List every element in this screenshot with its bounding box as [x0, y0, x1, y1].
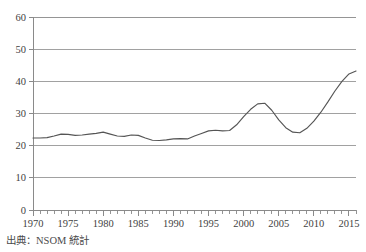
x-tick-label-1975: 1975 [58, 218, 79, 229]
source-caption: 出典：NSOM 統計 [6, 232, 89, 247]
x-tick-label-2010: 2010 [303, 218, 324, 229]
plot-area: 0102030405060197019751980198519901995200… [0, 0, 366, 232]
chart-figure: 0102030405060197019751980198519901995200… [0, 0, 366, 252]
y-tick-label-60: 60 [16, 12, 27, 23]
x-tick-label-1985: 1985 [128, 218, 149, 229]
y-tick-label-20: 20 [16, 140, 27, 151]
x-tick-label-1980: 1980 [93, 218, 114, 229]
y-tick-label-30: 30 [16, 108, 27, 119]
y-tick-label-50: 50 [16, 44, 27, 55]
y-tick-label-10: 10 [16, 172, 27, 183]
line-chart-svg: 0102030405060197019751980198519901995200… [0, 0, 366, 232]
x-tick-label-2000: 2000 [233, 218, 254, 229]
x-tick-label-2015: 2015 [338, 218, 359, 229]
y-tick-label-40: 40 [16, 76, 27, 87]
x-tick-label-1995: 1995 [198, 218, 219, 229]
x-tick-label-2005: 2005 [268, 218, 289, 229]
x-tick-label-1990: 1990 [163, 218, 184, 229]
x-tick-label-1970: 1970 [23, 218, 44, 229]
y-tick-label-0: 0 [21, 205, 26, 216]
